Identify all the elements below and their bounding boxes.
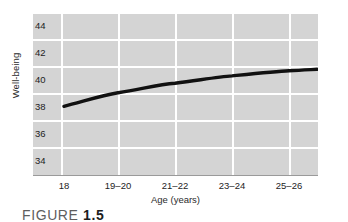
plot-area: 44 42 40 38 36 34 xyxy=(33,14,318,176)
x-tick-label-19-20: 19–20 xyxy=(105,180,131,191)
figure-caption-number: 1.5 xyxy=(83,207,104,222)
y-axis-title: Well-being xyxy=(10,36,21,116)
wellbeing-line-series xyxy=(33,14,318,176)
figure-container: Well-being 44 42 40 38 36 34 18 19–20 21… xyxy=(0,0,348,222)
figure-caption: FIGURE 1.5 xyxy=(22,207,104,222)
x-axis-title: Age (years) xyxy=(33,194,318,205)
figure-caption-label: FIGURE xyxy=(22,207,79,222)
x-tick-label-23-24: 23–24 xyxy=(219,180,245,191)
x-tick-label-25-26: 25–26 xyxy=(276,180,302,191)
x-tick-label-18: 18 xyxy=(59,180,70,191)
x-tick-label-21-22: 21–22 xyxy=(162,180,188,191)
